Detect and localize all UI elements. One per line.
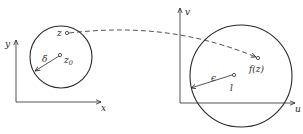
right-panel: v u ϵ l f(z) bbox=[180, 7, 301, 127]
epsilon-neighborhood-circle bbox=[190, 25, 292, 127]
u-axis-label: u bbox=[295, 104, 301, 114]
l-point bbox=[232, 73, 235, 76]
z-point bbox=[65, 31, 68, 34]
v-axis-label: v bbox=[185, 7, 190, 17]
mapping-dashed-arrow bbox=[69, 30, 256, 57]
z-label: z bbox=[56, 28, 62, 38]
diagram-canvas: y x δ z0 z v u ϵ l f(z) bbox=[0, 0, 303, 134]
fz-label: f(z) bbox=[248, 64, 265, 74]
z0-point bbox=[58, 53, 61, 56]
epsilon-label: ϵ bbox=[211, 73, 216, 83]
fz-point bbox=[256, 56, 259, 59]
x-axis-label: x bbox=[101, 103, 106, 113]
y-axis-label: y bbox=[4, 39, 11, 49]
l-label: l bbox=[230, 83, 233, 93]
delta-label: δ bbox=[42, 54, 47, 64]
left-panel: y x δ z0 z bbox=[4, 26, 106, 113]
z0-label: z0 bbox=[63, 55, 73, 67]
